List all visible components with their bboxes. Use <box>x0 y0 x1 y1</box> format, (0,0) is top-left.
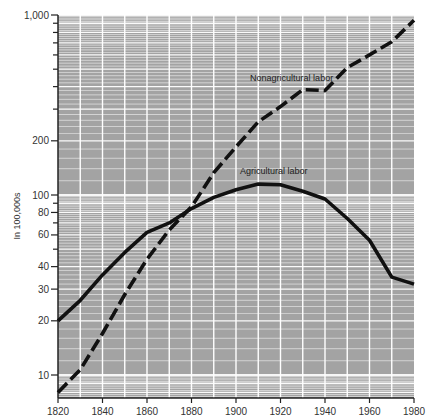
x-tick-label: 1940 <box>314 406 337 417</box>
labor-force-chart: 1,00020010080604030201018201840186018801… <box>0 0 434 420</box>
x-tick-label: 1860 <box>136 406 159 417</box>
x-tick-label: 1920 <box>269 406 292 417</box>
y-tick-label: 60 <box>38 229 50 240</box>
y-tick-label: 40 <box>38 261 50 272</box>
y-tick-label: 10 <box>38 370 50 381</box>
y-axis-label: In 100,000s <box>12 192 22 240</box>
y-tick-label: 200 <box>32 135 49 146</box>
x-tick-label: 1980 <box>403 406 426 417</box>
y-tick-label: 80 <box>38 207 50 218</box>
y-tick-label: 30 <box>38 284 50 295</box>
x-tick-label: 1960 <box>358 406 381 417</box>
x-tick-label: 1880 <box>180 406 203 417</box>
nonagricultural-labor-label: Nonagricultural labor <box>250 73 333 83</box>
x-tick-label: 1820 <box>47 406 70 417</box>
y-tick-label: 20 <box>38 315 50 326</box>
y-tick-label: 100 <box>32 190 49 201</box>
x-tick-label: 1840 <box>91 406 114 417</box>
y-tick-label: 1,000 <box>24 10 49 21</box>
agricultural-labor-label: Agricultural labor <box>240 166 308 176</box>
x-tick-label: 1900 <box>225 406 248 417</box>
